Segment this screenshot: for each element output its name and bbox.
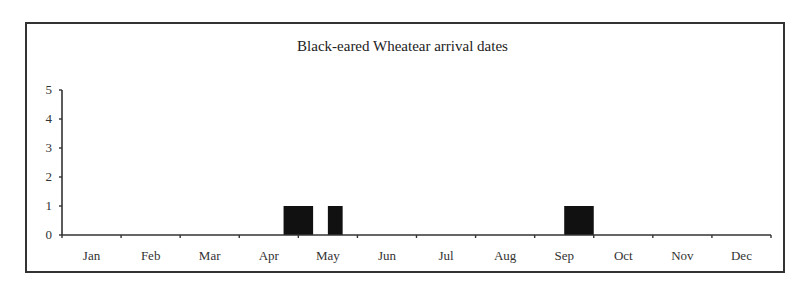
bar [328, 206, 343, 235]
chart-plot-area: 012345JanFebMarAprMayJunJulAugSepOctNovD… [0, 0, 805, 299]
x-tick-label: Nov [671, 248, 694, 263]
x-tick-label: Sep [554, 248, 574, 263]
x-tick-label: May [316, 248, 340, 263]
x-tick-label: Jul [438, 248, 454, 263]
y-tick-label: 0 [46, 227, 53, 242]
x-tick-label: Dec [731, 248, 752, 263]
x-tick-label: Jan [83, 248, 101, 263]
y-tick-label: 3 [46, 140, 53, 155]
y-tick-label: 5 [46, 82, 53, 97]
x-tick-label: Jun [378, 248, 397, 263]
y-tick-label: 4 [46, 111, 53, 126]
x-tick-label: Apr [259, 248, 280, 263]
x-tick-label: Feb [141, 248, 161, 263]
y-tick-label: 2 [46, 169, 53, 184]
x-tick-label: Oct [614, 248, 633, 263]
bar [284, 206, 314, 235]
y-tick-label: 1 [46, 198, 53, 213]
bar [564, 206, 594, 235]
x-tick-label: Mar [199, 248, 221, 263]
x-tick-label: Aug [494, 248, 517, 263]
